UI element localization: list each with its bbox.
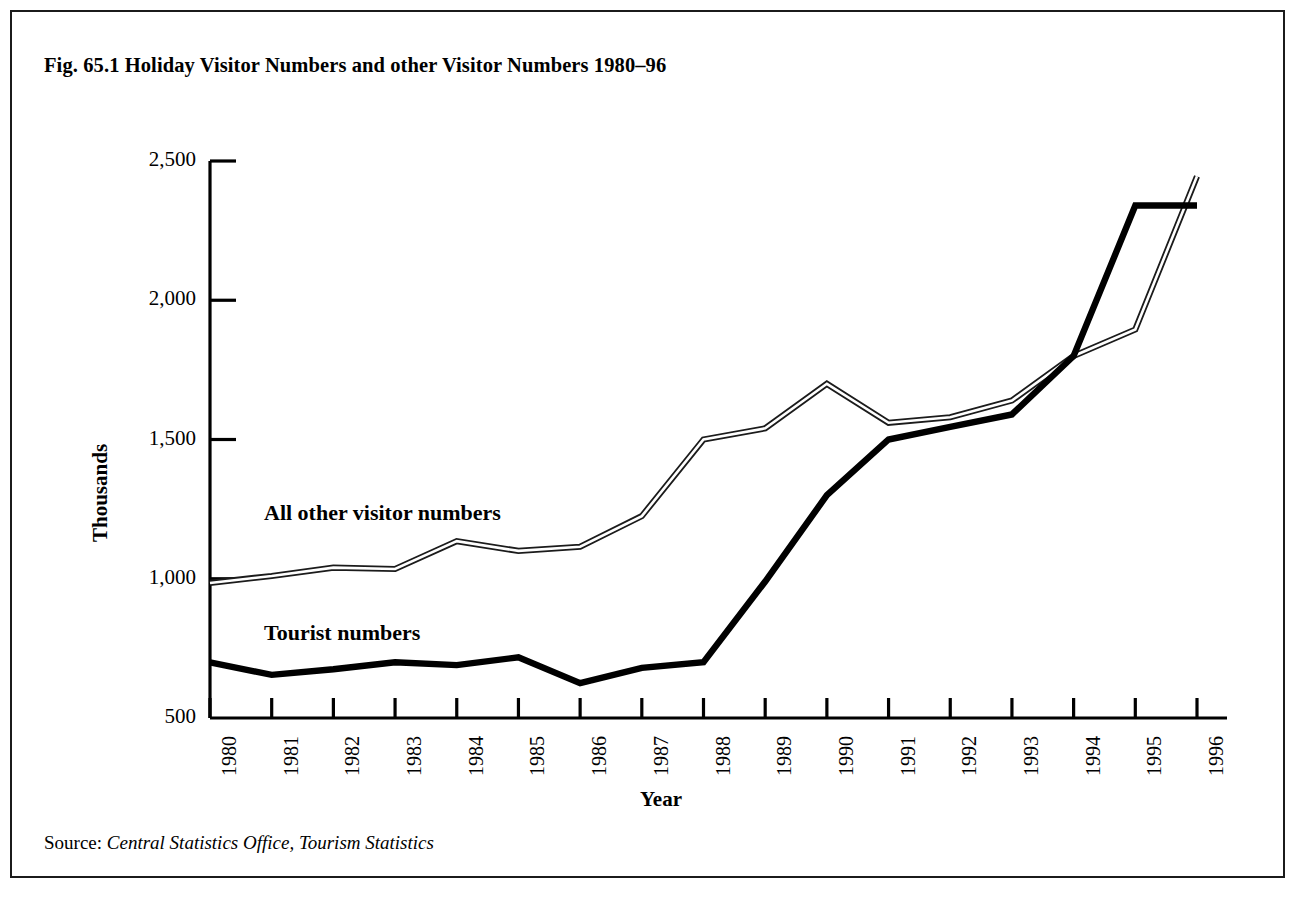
y-tick-label: 1,000 — [149, 565, 196, 590]
x-tick-label: 1996 — [1205, 736, 1228, 776]
x-tick-label: 1984 — [465, 736, 488, 776]
x-tick-label: 1995 — [1143, 736, 1166, 776]
y-tick-label: 2,500 — [149, 147, 196, 172]
x-axis-title: Year — [640, 787, 682, 812]
x-tick-label: 1992 — [958, 736, 981, 776]
figure-frame: Fig. 65.1 Holiday Visitor Numbers and ot… — [10, 10, 1285, 878]
x-tick-label: 1985 — [526, 736, 549, 776]
y-tick-label: 2,000 — [149, 286, 196, 311]
series-label-all-other-visitor-numbers: All other visitor numbers — [264, 500, 501, 526]
x-tick-label: 1990 — [835, 736, 858, 776]
x-tick-label: 1986 — [588, 736, 611, 776]
chart-series — [210, 176, 1197, 683]
x-tick-label: 1993 — [1020, 736, 1043, 776]
x-tick-label: 1980 — [218, 736, 241, 776]
x-tick-label: 1988 — [712, 736, 735, 776]
y-tick-label: 500 — [165, 704, 197, 729]
x-tick-label: 1987 — [650, 736, 673, 776]
x-tick-label: 1983 — [403, 736, 426, 776]
x-tick-label: 1982 — [341, 736, 364, 776]
y-tick-label: 1,500 — [149, 426, 196, 451]
x-tick-label: 1981 — [280, 736, 303, 776]
source-reference: Central Statistics Office, Tourism Stati… — [107, 832, 434, 853]
y-axis-title: Thousands — [88, 444, 113, 542]
source-label: Source: — [44, 832, 107, 853]
x-tick-label: 1994 — [1082, 736, 1105, 776]
chart-plot-area: 5001,0001,5002,0002,500 1980198119821983… — [12, 12, 1283, 876]
source-note: Source: Central Statistics Office, Touri… — [44, 832, 434, 854]
x-tick-label: 1989 — [773, 736, 796, 776]
x-tick-label: 1991 — [897, 736, 920, 776]
series-label-tourist-numbers: Tourist numbers — [264, 620, 420, 646]
